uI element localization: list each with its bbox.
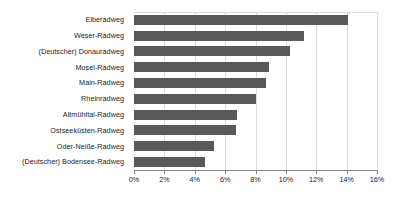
tick-label: 12% <box>309 176 323 183</box>
bar-row <box>134 91 377 107</box>
bar <box>134 62 269 72</box>
category-label: Altmühltal-Radweg <box>0 107 128 123</box>
tick-mark <box>316 170 317 174</box>
bar-row <box>134 28 377 44</box>
category-label: Ostseeküsten-Radweg <box>0 123 128 139</box>
gridline <box>377 12 378 170</box>
bar-row <box>134 44 377 60</box>
category-label: Oder-Neiße-Radweg <box>0 138 128 154</box>
tick-label: 0% <box>129 176 139 183</box>
tick-mark <box>256 170 257 174</box>
bar-row <box>134 12 377 28</box>
tick-label: 10% <box>279 176 293 183</box>
value-axis-tick-labels: 0%2%4%6%8%10%12%14%16% <box>134 176 377 190</box>
bar <box>134 110 237 120</box>
bar <box>134 141 214 151</box>
category-label: Rheinradweg <box>0 91 128 107</box>
bar <box>134 94 256 104</box>
tick-mark <box>195 170 196 174</box>
category-label: (Deutscher) Donauradweg <box>0 44 128 60</box>
category-axis: ElberadwegWeser-Radweg(Deutscher) Donaur… <box>0 12 128 170</box>
category-label: Elberadweg <box>0 12 128 28</box>
tick-mark <box>164 170 165 174</box>
bar-row <box>134 59 377 75</box>
bar-chart: ElberadwegWeser-Radweg(Deutscher) Donaur… <box>0 0 397 199</box>
bar-row <box>134 75 377 91</box>
tick-label: 8% <box>250 176 260 183</box>
category-label: Mosel-Radweg <box>0 59 128 75</box>
category-label: Main-Radweg <box>0 75 128 91</box>
tick-mark <box>286 170 287 174</box>
bar-row <box>134 138 377 154</box>
bar-row <box>134 123 377 139</box>
tick-mark <box>134 170 135 174</box>
bar <box>134 15 348 25</box>
tick-label: 14% <box>339 176 353 183</box>
tick-label: 4% <box>190 176 200 183</box>
tick-label: 2% <box>159 176 169 183</box>
bar-row <box>134 154 377 170</box>
tick-mark <box>347 170 348 174</box>
category-label: (Deutscher) Bodensee-Radweg <box>0 154 128 170</box>
bar <box>134 78 266 88</box>
bar-series <box>134 12 377 170</box>
bar <box>134 46 290 56</box>
plot-area <box>134 12 377 170</box>
category-label: Weser-Radweg <box>0 28 128 44</box>
bar <box>134 125 236 135</box>
tick-label: 16% <box>370 176 384 183</box>
tick-label: 6% <box>220 176 230 183</box>
tick-mark <box>377 170 378 174</box>
tick-mark <box>225 170 226 174</box>
bar <box>134 157 205 167</box>
bar <box>134 31 304 41</box>
bar-row <box>134 107 377 123</box>
